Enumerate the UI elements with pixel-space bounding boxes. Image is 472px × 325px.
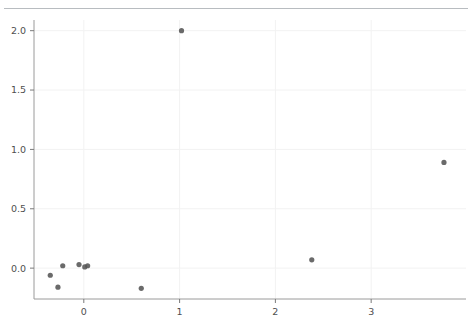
y-tick-label: 2.0 — [11, 25, 26, 36]
x-tick-label: 0 — [81, 306, 87, 317]
toolbar-left-label: ··· ······· ··· ········ — [6, 0, 72, 4]
data-point — [55, 285, 60, 290]
y-tick-label: 1.5 — [11, 84, 26, 95]
clipped-toolbar: ··· ······· ··· ········ ·· — [0, 0, 472, 9]
data-point — [60, 263, 65, 268]
data-point — [441, 160, 446, 165]
screenshot-root: ··· ······· ··· ········ ·· 0.00.51.01.5… — [0, 0, 472, 325]
scatter-plot: 0.00.51.01.52.00123 — [0, 9, 472, 325]
data-point — [179, 28, 184, 33]
data-point — [76, 262, 81, 267]
y-tick-label: 1.0 — [11, 144, 26, 155]
y-tick-label: 0.5 — [11, 203, 26, 214]
x-tick-label: 2 — [272, 306, 278, 317]
data-point — [309, 257, 314, 262]
x-tick-label: 3 — [368, 306, 374, 317]
data-point — [139, 286, 144, 291]
data-point — [85, 263, 90, 268]
y-tick-label: 0.0 — [11, 263, 26, 274]
scatter-plot-canvas: 0.00.51.01.52.00123 — [0, 9, 472, 325]
x-tick-label: 1 — [177, 306, 183, 317]
toolbar-right-label: ·· — [462, 0, 467, 4]
data-point — [48, 273, 53, 278]
